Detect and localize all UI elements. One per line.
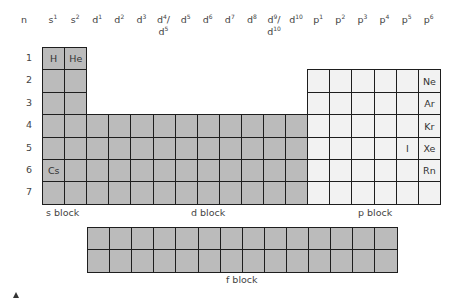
f-block-cell <box>242 227 265 251</box>
element-cell <box>329 114 352 138</box>
period-label-3: 3 <box>24 97 34 108</box>
f-block-cell <box>374 227 397 251</box>
element-cell-rn: Rn <box>418 159 441 183</box>
f-block-cell <box>87 227 110 251</box>
element-cell <box>175 114 198 138</box>
element-cell <box>374 159 397 183</box>
element-cell <box>42 69 65 93</box>
element-cell <box>263 181 286 205</box>
column-header-d9: d9/d10 <box>263 14 285 38</box>
triangle-marker-icon <box>13 292 19 298</box>
column-header-p2: p2 <box>329 14 351 26</box>
element-cell <box>153 181 176 205</box>
column-header-p5: p5 <box>396 14 418 26</box>
element-cell <box>374 114 397 138</box>
element-cell <box>307 92 330 116</box>
element-cell <box>108 114 131 138</box>
period-label-1: 1 <box>24 52 34 63</box>
element-cell <box>153 114 176 138</box>
element-cell <box>329 92 352 116</box>
f-block-cell <box>242 249 265 273</box>
element-cell <box>153 137 176 161</box>
column-header-s2: s2 <box>64 14 86 26</box>
element-cell <box>42 114 65 138</box>
element-cell <box>241 114 264 138</box>
element-cell-ne: Ne <box>418 69 441 93</box>
d-block-label: d block <box>191 207 225 218</box>
column-header-d1: d1 <box>86 14 108 26</box>
element-cell <box>219 181 242 205</box>
period-label-2: 2 <box>24 74 34 85</box>
f-block-cell <box>220 227 243 251</box>
f-block-cell <box>330 227 353 251</box>
element-cell <box>197 159 220 183</box>
f-block-cell <box>286 249 309 273</box>
element-cell <box>285 137 308 161</box>
column-header-d3: d3 <box>130 14 152 26</box>
element-cell <box>64 92 87 116</box>
f-block-cell <box>352 249 375 273</box>
element-cell <box>263 114 286 138</box>
element-cell <box>108 159 131 183</box>
column-header-d5: d5 <box>175 14 197 26</box>
element-cell <box>351 159 374 183</box>
element-cell-kr: Kr <box>418 114 441 138</box>
element-cell <box>130 137 153 161</box>
element-cell <box>285 181 308 205</box>
element-cell <box>351 92 374 116</box>
element-cell <box>374 92 397 116</box>
element-cell <box>86 137 109 161</box>
element-cell <box>329 69 352 93</box>
element-cell <box>285 114 308 138</box>
f-block-cell <box>175 227 198 251</box>
column-header-d10: d10 <box>285 14 307 26</box>
element-cell <box>219 114 242 138</box>
element-cell <box>197 114 220 138</box>
element-cell <box>418 181 441 205</box>
f-block-cell <box>352 227 375 251</box>
element-cell <box>175 137 198 161</box>
f-block-cell <box>87 249 110 273</box>
period-label-5: 5 <box>24 142 34 153</box>
element-cell <box>64 159 87 183</box>
period-label-7: 7 <box>24 186 34 197</box>
element-cell <box>307 137 330 161</box>
element-cell <box>263 137 286 161</box>
column-header-d2: d2 <box>108 14 130 26</box>
f-block-cell <box>374 249 397 273</box>
element-cell <box>64 137 87 161</box>
element-cell <box>396 181 419 205</box>
element-cell <box>351 69 374 93</box>
element-cell <box>351 181 374 205</box>
element-cell <box>197 181 220 205</box>
f-block-cell <box>308 249 331 273</box>
element-cell <box>374 69 397 93</box>
element-cell-xe: Xe <box>418 137 441 161</box>
element-cell <box>175 181 198 205</box>
column-header-s1: s1 <box>42 14 64 26</box>
element-cell <box>130 181 153 205</box>
element-cell <box>64 181 87 205</box>
element-cell <box>219 137 242 161</box>
f-block-cell <box>264 249 287 273</box>
column-header-d4: d4/d5 <box>153 14 175 38</box>
element-cell <box>86 114 109 138</box>
element-cell <box>329 159 352 183</box>
element-cell <box>42 137 65 161</box>
element-cell <box>307 69 330 93</box>
f-block-cell <box>109 249 132 273</box>
element-cell <box>396 69 419 93</box>
f-block-cell <box>153 227 176 251</box>
column-header-p4: p4 <box>374 14 396 26</box>
f-block-cell <box>308 227 331 251</box>
s-block-label: s block <box>46 207 79 218</box>
element-cell <box>153 159 176 183</box>
p-block-label: p block <box>358 207 392 218</box>
period-header-label: n <box>19 14 29 26</box>
column-header-p3: p3 <box>351 14 373 26</box>
element-cell <box>307 181 330 205</box>
f-block-cell <box>153 249 176 273</box>
element-cell <box>241 137 264 161</box>
element-cell <box>130 159 153 183</box>
element-cell <box>108 181 131 205</box>
